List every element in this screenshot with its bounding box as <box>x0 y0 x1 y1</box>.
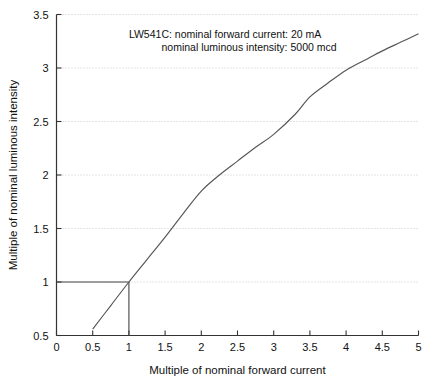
y-axis-title: Multiple of nominal luminous intensity <box>7 80 19 271</box>
x-tick-labels: 00.511.522.533.544.55 <box>53 341 421 353</box>
x-tick-label-1: 1 <box>126 341 132 353</box>
series-line-0 <box>93 34 419 329</box>
x-tick-label-3.5: 3.5 <box>302 341 317 353</box>
y-tick-label-1: 1 <box>42 276 48 288</box>
line-chart: 00.511.522.533.544.55 0.511.522.533.5 LW… <box>0 0 434 379</box>
y-tick-label-1.5: 1.5 <box>33 223 48 235</box>
x-tick-label-2.5: 2.5 <box>230 341 245 353</box>
y-tick-label-3: 3 <box>42 62 48 74</box>
y-tick-label-3.5: 3.5 <box>33 9 48 21</box>
x-axis-title: Multiple of nominal forward current <box>149 364 326 376</box>
device-annotation-line-1: LW541C: nominal forward current: 20 mA <box>129 28 321 40</box>
device-annotation-line-2: nominal luminous intensity: 5000 mcd <box>161 41 336 53</box>
x-tick-label-4: 4 <box>343 341 349 353</box>
reference-lines <box>57 282 129 336</box>
x-tick-label-2: 2 <box>198 341 204 353</box>
y-tick-label-2: 2 <box>42 169 48 181</box>
x-tick-label-3: 3 <box>271 341 277 353</box>
x-tick-label-5: 5 <box>415 341 421 353</box>
x-tick-label-0.5: 0.5 <box>85 341 100 353</box>
chart-container: 00.511.522.533.544.55 0.511.522.533.5 LW… <box>0 0 434 379</box>
x-tick-label-1.5: 1.5 <box>157 341 172 353</box>
y-tick-label-2.5: 2.5 <box>33 116 48 128</box>
x-axis-ticks <box>57 331 419 336</box>
y-axis-ticks <box>57 15 62 336</box>
chart-annotations: LW541C: nominal forward current: 20 mAno… <box>129 28 337 53</box>
y-tick-labels: 0.511.522.533.5 <box>33 9 48 342</box>
x-tick-label-4.5: 4.5 <box>375 341 390 353</box>
data-series <box>93 34 419 329</box>
y-tick-label-0.5: 0.5 <box>33 330 48 342</box>
x-tick-label-0: 0 <box>53 341 59 353</box>
grid-lines <box>57 15 419 283</box>
